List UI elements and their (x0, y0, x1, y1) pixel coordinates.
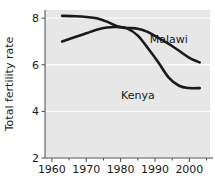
x-tick-label-1960: 1960 (38, 163, 66, 176)
x-tick-label-1980: 1980 (107, 163, 135, 176)
x-tick-group: 19601970198019902000 (38, 158, 207, 176)
x-tick-label-1990: 1990 (141, 163, 169, 176)
fertility-rate-line-chart: 2468 19601970198019902000 MalawiKenya To… (0, 0, 215, 182)
series-label-malawi: Malawi (150, 33, 188, 46)
x-tick-label-1970: 1970 (72, 163, 100, 176)
y-axis-title-group: Total fertility rate (3, 37, 16, 133)
series-label-kenya: Kenya (121, 89, 155, 102)
y-tick-label-8: 8 (32, 12, 39, 25)
y-tick-label-4: 4 (32, 105, 39, 118)
y-axis-title: Total fertility rate (3, 37, 16, 133)
y-tick-label-6: 6 (32, 59, 39, 72)
y-tick-group: 2468 (32, 12, 45, 165)
x-tick-label-2000: 2000 (175, 163, 203, 176)
chart-container: 2468 19601970198019902000 MalawiKenya To… (0, 0, 215, 182)
